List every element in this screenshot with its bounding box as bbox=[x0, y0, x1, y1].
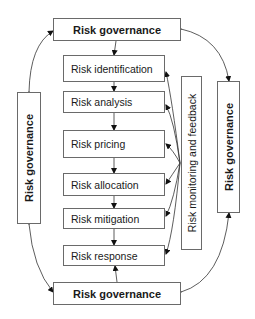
step-risk-analysis: Risk analysis bbox=[63, 91, 165, 113]
step-label: Risk pricing bbox=[71, 138, 125, 150]
step-label: Risk analysis bbox=[71, 96, 132, 108]
step-risk-mitigation: Risk mitigation bbox=[63, 208, 165, 229]
step-risk-pricing: Risk pricing bbox=[63, 130, 165, 158]
step-risk-response: Risk response bbox=[63, 245, 165, 266]
right-governance-label: Risk governance bbox=[223, 103, 235, 191]
left-governance-label: Risk governance bbox=[23, 114, 35, 202]
right-governance-box: Risk governance bbox=[217, 81, 240, 213]
left-governance-box: Risk governance bbox=[17, 92, 41, 224]
step-label: Risk response bbox=[71, 250, 138, 262]
step-label: Risk allocation bbox=[71, 179, 139, 191]
monitoring-feedback-box: Risk monitoring and feedback bbox=[181, 76, 202, 250]
step-risk-allocation: Risk allocation bbox=[63, 173, 165, 196]
step-label: Risk identification bbox=[71, 63, 153, 75]
bottom-governance-label: Risk governance bbox=[73, 288, 161, 300]
top-governance-label: Risk governance bbox=[73, 24, 161, 36]
top-governance-box: Risk governance bbox=[53, 18, 181, 41]
bottom-governance-box: Risk governance bbox=[53, 282, 181, 305]
step-label: Risk mitigation bbox=[71, 213, 139, 225]
monitoring-feedback-label: Risk monitoring and feedback bbox=[186, 94, 198, 232]
step-risk-identification: Risk identification bbox=[63, 55, 165, 82]
